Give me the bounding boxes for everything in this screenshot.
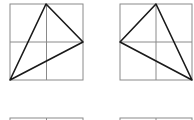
grid-figure-A [10,4,83,80]
figure-canvas [0,0,194,120]
grid-figure-D [120,118,192,120]
grid-figure-C [10,118,83,120]
grid-figure-B [120,4,192,80]
